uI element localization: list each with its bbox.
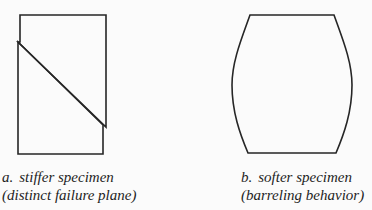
barrel-outline xyxy=(232,15,352,153)
softer-specimen-shape xyxy=(232,15,352,153)
caption-b-prefix: b. xyxy=(241,169,252,185)
caption-a-subtitle: (distinct failure plane) xyxy=(2,186,136,204)
caption-b-subtitle: (barreling behavior) xyxy=(241,186,364,204)
upper-block xyxy=(18,15,106,127)
caption-a-title-line: a.stiffer specimen xyxy=(2,168,136,186)
caption-softer-specimen: b.softer specimen (barreling behavior) xyxy=(241,168,364,204)
caption-b-title-line: b.softer specimen xyxy=(241,168,364,186)
caption-a-title: stiffer specimen xyxy=(19,169,114,185)
stiffer-specimen-shape xyxy=(18,15,106,154)
caption-stiffer-specimen: a.stiffer specimen (distinct failure pla… xyxy=(2,168,136,204)
lower-block xyxy=(18,42,103,154)
caption-a-prefix: a. xyxy=(2,169,13,185)
caption-b-title: softer specimen xyxy=(258,169,352,185)
